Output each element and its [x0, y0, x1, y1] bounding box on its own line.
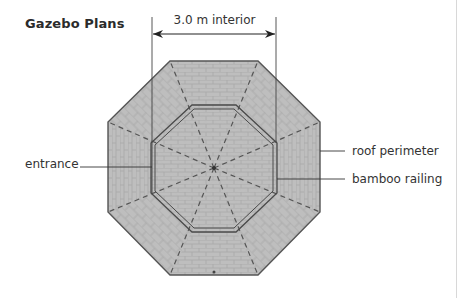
roof-perimeter-callout: roof perimeter	[352, 144, 439, 158]
page-edge-divider	[456, 0, 457, 298]
dimension-label: 3.0 m interior	[152, 13, 277, 27]
center-point	[212, 166, 216, 170]
bamboo-railing-callout: bamboo railing	[352, 172, 442, 186]
entrance-callout: entrance	[25, 157, 79, 171]
